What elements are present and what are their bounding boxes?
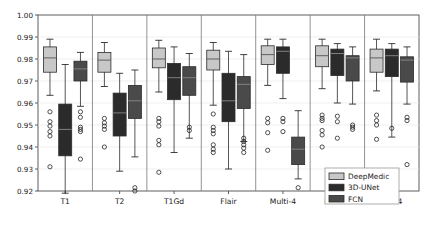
box-rect: [59, 104, 72, 156]
box-rect: [152, 48, 165, 68]
box-rect: [98, 52, 111, 72]
box-rect: [316, 46, 329, 67]
x-tick-label-multi-4: Multi-4: [270, 197, 296, 206]
box-rect: [74, 61, 87, 81]
box-rect: [207, 50, 220, 70]
legend-label-deepmedic: DeepMedic: [348, 172, 389, 181]
legend-swatch-3dunet: [329, 184, 344, 191]
y-tick-label: 0.92: [17, 187, 33, 196]
x-tick-label-t1: T1: [59, 197, 70, 206]
box-rect: [128, 85, 141, 118]
y-tick-label: 0.99: [17, 33, 33, 42]
box-rect: [261, 46, 274, 65]
chart-canvas: 1.000.990.980.970.960.950.940.930.92T1T2…: [0, 0, 427, 229]
boxplot-chart: 1.000.990.980.970.960.950.940.930.92T1T2…: [0, 0, 427, 229]
box-rect: [113, 93, 126, 136]
y-tick-label: 0.93: [17, 165, 33, 174]
y-tick-label: 0.98: [17, 55, 33, 64]
box-rect: [222, 73, 235, 121]
x-tick-label-t1gd: T1Gd: [163, 197, 184, 206]
box-rect: [43, 47, 56, 72]
y-tick-label: 0.97: [17, 77, 33, 86]
x-tick-label-t2: T2: [114, 197, 125, 206]
box-rect: [237, 77, 250, 109]
box-rect: [385, 49, 398, 77]
y-tick-label: 0.94: [17, 143, 33, 152]
legend: DeepMedic3D-UNetFCN: [325, 168, 399, 204]
y-tick-label: 1.00: [17, 11, 33, 20]
box-rect: [292, 137, 305, 165]
legend-label-fcn: FCN: [348, 195, 363, 204]
y-tick-label: 0.95: [17, 121, 33, 130]
box-rect: [183, 67, 196, 96]
box-rect: [168, 63, 181, 99]
legend-label-3dunet: 3D-UNet: [348, 183, 380, 192]
box-rect: [370, 49, 383, 72]
box-rect: [401, 57, 414, 82]
y-tick-label: 0.96: [17, 99, 33, 108]
x-tick-label-flair: Flair: [220, 197, 237, 206]
legend-swatch-deepmedic: [329, 173, 344, 180]
legend-swatch-fcn: [329, 195, 344, 202]
box-rect: [346, 56, 359, 81]
